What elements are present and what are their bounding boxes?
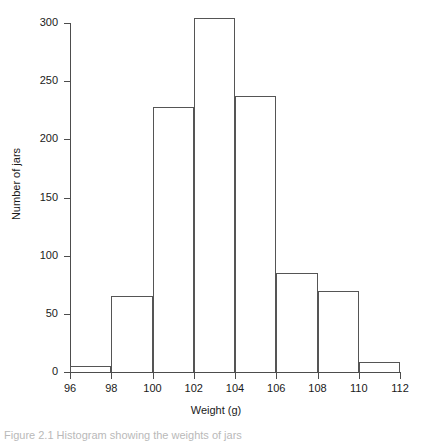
y-tick-label: 0 [24,366,58,377]
y-tick-mark [64,23,70,24]
x-axis-title: Weight (g) [0,404,432,416]
y-tick-label-text: 0 [24,366,58,377]
y-tick-label: 100 [24,250,58,261]
histogram-bar [318,291,359,372]
x-tick-mark [276,373,277,379]
histogram-bar [194,18,235,372]
histogram-bar [359,362,400,372]
y-tick-label-text: 100 [24,250,58,261]
x-tick-label: 110 [339,382,379,394]
x-tick-label: 102 [174,382,214,394]
y-tick-label: 50 [24,308,58,319]
x-tick-label: 96 [50,382,90,394]
y-tick-label-text: 50 [24,308,58,319]
y-axis-title: Number of jars [10,124,22,244]
y-tick-label: 150 [24,192,58,203]
y-tick-label-text: 250 [24,75,58,86]
x-tick-mark [70,373,71,379]
y-tick-mark [64,81,70,82]
histogram-bar [70,366,111,372]
histogram-bar [235,96,276,372]
x-tick-label: 104 [215,382,255,394]
y-tick-label-text: 150 [24,192,58,203]
y-tick-mark [64,139,70,140]
x-tick-label: 112 [380,382,420,394]
x-tick-mark [235,373,236,379]
histogram-bar [111,296,152,372]
histogram-bar [153,107,194,372]
x-tick-label: 106 [256,382,296,394]
x-tick-mark [111,373,112,379]
x-tick-mark [318,373,319,379]
histogram-bar [276,273,317,372]
y-tick-label-text: 200 [24,133,58,144]
y-tick-mark [64,256,70,257]
x-tick-mark [153,373,154,379]
figure-caption: Figure 2.1 Histogram showing the weights… [4,429,428,441]
x-tick-label: 100 [133,382,173,394]
y-tick-mark [64,314,70,315]
y-tick-label: 250 [24,75,58,86]
y-axis-line [70,23,71,372]
y-tick-label: 300 [24,17,58,28]
x-tick-mark [194,373,195,379]
x-tick-mark [400,373,401,379]
y-tick-label-text: 300 [24,17,58,28]
y-tick-label: 200 [24,133,58,144]
x-tick-label: 98 [91,382,131,394]
x-tick-mark [359,373,360,379]
y-tick-mark [64,198,70,199]
x-tick-label: 108 [298,382,338,394]
